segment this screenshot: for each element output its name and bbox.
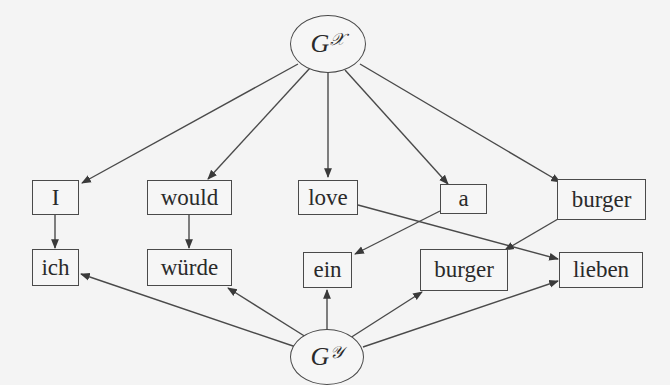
graph-x-superscript: 𝒳	[330, 30, 345, 50]
source-token-burger: burger	[557, 179, 646, 220]
edge-gx-I	[82, 64, 298, 183]
target-token-burger: burger	[420, 249, 508, 291]
graph-y-label: G	[311, 342, 330, 372]
graph-x-node: G𝒳	[290, 15, 366, 73]
edge-gx-a	[345, 70, 448, 184]
edge-a-ein	[355, 211, 440, 254]
target-token-lieben: lieben	[559, 252, 643, 288]
source-token-love: love	[298, 180, 358, 215]
source-token-I: I	[32, 180, 79, 215]
source-token-would: would	[147, 180, 232, 215]
graph-y-superscript: 𝒴	[330, 343, 343, 363]
target-token-wurde: würde	[147, 249, 232, 286]
target-token-ein: ein	[303, 252, 352, 288]
edge-burger-burger	[505, 219, 558, 250]
source-token-a: a	[440, 184, 487, 214]
edge-gx-burger	[360, 64, 560, 182]
edge-gy-wurde	[228, 288, 306, 337]
target-token-ich: ich	[32, 249, 79, 286]
graph-y-node: G𝒴	[290, 329, 364, 385]
graph-x-label: G	[311, 29, 330, 59]
edge-gx-would	[208, 68, 310, 179]
